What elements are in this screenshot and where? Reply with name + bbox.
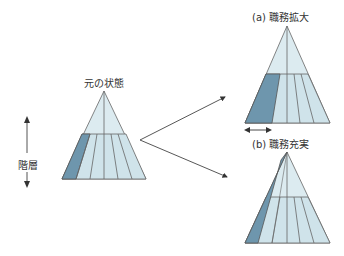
diagram-canvas: [0, 0, 344, 256]
enlargement-width-arrow: [244, 127, 272, 133]
job-enlargement-label: (a) 職務拡大: [252, 9, 309, 24]
hierarchy-label: 階層: [18, 157, 38, 172]
hierarchy-arrow: [24, 116, 30, 188]
enrichment-pyramid: [245, 152, 330, 243]
enlargement-pyramid: [245, 26, 330, 123]
original-pyramid: [62, 91, 146, 179]
original-state-label: 元の状態: [84, 75, 124, 90]
job-enrichment-label: (b) 職務充実: [252, 136, 309, 151]
branch-arrows: [140, 97, 227, 177]
